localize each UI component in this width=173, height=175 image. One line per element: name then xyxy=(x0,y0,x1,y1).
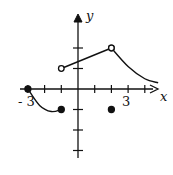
piece-2-line xyxy=(61,48,111,69)
function-curves xyxy=(28,48,158,112)
open-circle-icon xyxy=(59,66,65,72)
closed-dot-icon xyxy=(25,86,31,92)
x-tick-label-neg3: - 3 xyxy=(18,94,35,109)
closed-dot-icon xyxy=(58,107,64,113)
y-axis-arrow-icon xyxy=(74,14,82,22)
plot-area: y x - 3 3 xyxy=(0,0,173,175)
x-axis-label: x xyxy=(160,89,168,104)
closed-dot-icon xyxy=(108,107,114,113)
y-axis-label: y xyxy=(85,8,94,23)
endpoint-markers xyxy=(25,45,115,112)
axes xyxy=(20,14,158,158)
piece-3-curve xyxy=(111,48,158,83)
x-tick-label-3: 3 xyxy=(122,94,130,109)
piecewise-function-graph: y x - 3 3 xyxy=(0,0,173,175)
open-circle-icon xyxy=(109,45,115,51)
